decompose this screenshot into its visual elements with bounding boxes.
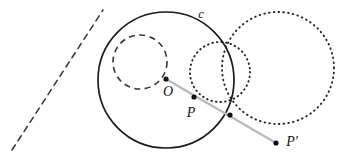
dashed-line: [12, 10, 103, 150]
point-p-prime-dot: [273, 140, 278, 145]
small-dotted-circle: [190, 42, 250, 102]
label-point-p: P: [186, 105, 196, 120]
label-point-p-prime: P′: [285, 134, 299, 149]
point-intersection-dot: [227, 112, 232, 117]
point-o-dot: [163, 76, 168, 81]
inversion-ray: [166, 79, 276, 143]
figure-canvas: c O P P′: [0, 0, 343, 156]
geometry-figure: c O P P′: [0, 0, 343, 156]
label-center-o: O: [163, 84, 173, 99]
label-circle-c: c: [198, 7, 204, 21]
large-dotted-circle: [222, 12, 334, 124]
dashed-circle: [113, 35, 167, 89]
point-p-dot: [191, 94, 196, 99]
